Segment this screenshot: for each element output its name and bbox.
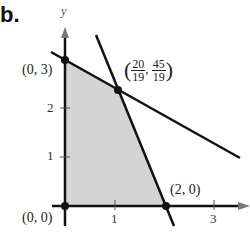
vertex-label-0-3: (0, 3)	[22, 62, 52, 78]
x-axis-arrow-icon	[238, 202, 250, 210]
x-tick-label-3: 3	[210, 211, 217, 227]
vertex-intersection	[114, 86, 122, 94]
y-axis-arrow-icon	[61, 27, 69, 38]
vertex-origin	[61, 202, 69, 210]
x-fraction: 2019	[131, 58, 145, 83]
vertex-label-origin: (0, 0)	[22, 210, 52, 226]
y-fraction: 4519	[152, 58, 166, 83]
vertex-label-2-0: (2, 0)	[170, 182, 200, 198]
vertex-label-intersection: (2019, 4519)	[124, 57, 173, 83]
y-tick-label-2: 2	[47, 100, 54, 116]
y-axis-label: y	[61, 4, 66, 19]
vertex-2-0	[162, 202, 170, 210]
vertex-0-3	[61, 56, 69, 64]
x-tick-label-1: 1	[111, 211, 118, 227]
y-tick-label-1: 1	[47, 148, 54, 164]
graph-canvas	[0, 0, 250, 240]
feasible-region-diagram: b. y 1 3 1 2 (0, 3) (0, 0) (2, 0) (2019,…	[0, 0, 250, 240]
